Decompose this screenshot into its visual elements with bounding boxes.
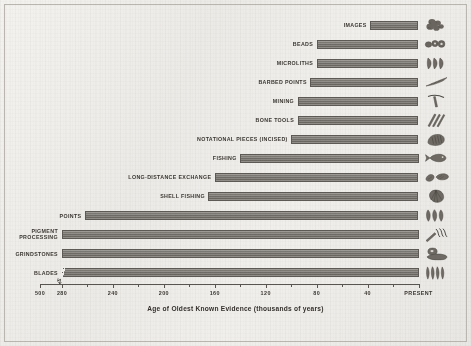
grindstone-icon	[423, 246, 463, 261]
bar	[298, 97, 419, 106]
x-axis-ticks: 5002802402001601208040PRESENT	[0, 284, 471, 300]
bar-label: NOTATIONAL PIECES (INCISED)	[98, 136, 288, 142]
bar	[215, 173, 419, 182]
axis-minor-tick	[138, 284, 139, 287]
bar-track	[215, 173, 419, 182]
bar-track	[62, 249, 419, 258]
chart-figure: IMAGES BEADS MICROLITHS BARBED POINTS MI…	[0, 0, 471, 346]
bar-row: PIGMENTPROCESSING	[0, 229, 471, 240]
shell-icon	[423, 189, 463, 204]
bar-row: LONG-DISTANCE EXCHANGE	[0, 172, 471, 183]
bar-track	[317, 59, 419, 68]
bar-label: LONG-DISTANCE EXCHANGE	[21, 174, 211, 180]
blades-icon	[423, 265, 463, 280]
bar-row: MINING	[0, 96, 471, 107]
bar-row: NOTATIONAL PIECES (INCISED)	[0, 134, 471, 145]
axis-tick-label: 280	[57, 290, 67, 296]
bar-label-line: PIGMENT	[0, 228, 58, 235]
bar-track	[62, 268, 419, 277]
figurine-icon	[423, 18, 463, 33]
bar	[62, 230, 419, 239]
bar	[291, 135, 418, 144]
bar-row: MICROLITHS	[0, 58, 471, 69]
pick-axe-icon	[423, 94, 463, 109]
bar	[310, 78, 418, 87]
bar-row: BARBED POINTS	[0, 77, 471, 88]
bar-row: FISHING	[0, 153, 471, 164]
bar-label: BARBED POINTS	[117, 79, 307, 85]
bar-row: GRINDSTONES	[0, 248, 471, 259]
bar-label: PIGMENTPROCESSING	[0, 228, 58, 241]
bar	[317, 59, 419, 68]
axis-tick	[113, 284, 114, 288]
bar-label: MINING	[104, 98, 294, 104]
axis-minor-tick	[87, 284, 88, 287]
bar-track	[240, 154, 418, 163]
bar-label: SHELL FISHING	[15, 193, 205, 199]
pigment-icon	[423, 227, 463, 242]
axis-tick	[266, 284, 267, 288]
barbed-point-icon	[423, 75, 463, 90]
bar-track	[298, 116, 419, 125]
axis-minor-tick	[342, 284, 343, 287]
stone-points-icon	[423, 208, 463, 223]
bar-track	[208, 192, 418, 201]
axis-tick	[368, 284, 369, 288]
bar-label: BONE TOOLS	[104, 117, 294, 123]
bar	[370, 21, 418, 30]
bar	[240, 154, 418, 163]
axis-tick-label: 240	[108, 290, 118, 296]
incised-stone-icon	[423, 132, 463, 147]
axis-break-icon: ↯	[56, 278, 63, 286]
axis-minor-tick	[393, 284, 394, 287]
bar-label: GRINDSTONES	[0, 250, 58, 256]
axis-tick-label: PRESENT	[404, 290, 432, 296]
bar-row: SHELL FISHING	[0, 191, 471, 202]
bar-label: MICROLITHS	[123, 60, 313, 66]
bar-track	[291, 135, 418, 144]
bar	[85, 211, 419, 220]
axis-tick	[215, 284, 216, 288]
axis-minor-tick	[291, 284, 292, 287]
bar-row: POINTS	[0, 210, 471, 221]
axis-tick-label: 200	[159, 290, 169, 296]
bar-track	[310, 78, 418, 87]
fish-icon	[423, 151, 463, 166]
axis-tick	[40, 284, 41, 288]
bar	[298, 116, 419, 125]
bar-row: BLADES	[0, 267, 471, 278]
beads-icon	[423, 37, 463, 52]
bar	[317, 40, 419, 49]
x-axis-title: Age of Oldest Known Evidence (thousands …	[0, 305, 471, 312]
bar	[62, 249, 419, 258]
bar-row: BONE TOOLS	[0, 115, 471, 126]
bar-row: IMAGES	[0, 20, 471, 31]
microliths-icon	[423, 56, 463, 71]
bone-tools-icon	[423, 113, 463, 128]
bar-label: IMAGES	[177, 22, 367, 28]
bar-label: BEADS	[123, 41, 313, 47]
bar-label: POINTS	[0, 212, 81, 218]
bar-label-line: PROCESSING	[0, 235, 58, 242]
bar-track	[62, 230, 419, 239]
axis-tick-label: 80	[313, 290, 320, 296]
axis-minor-tick	[240, 284, 241, 287]
axis-tick-label: 160	[210, 290, 220, 296]
bar	[208, 192, 418, 201]
bar	[62, 268, 419, 277]
bar-track	[370, 21, 418, 30]
bar-label: FISHING	[47, 155, 237, 161]
axis-tick	[164, 284, 165, 288]
axis-tick	[317, 284, 318, 288]
axis-tick-label: 500	[35, 290, 45, 296]
axis-tick-label: 120	[261, 290, 271, 296]
bar-track	[298, 97, 419, 106]
bar-row: BEADS	[0, 39, 471, 50]
bar-label: BLADES	[0, 269, 58, 275]
axis-minor-tick	[189, 284, 190, 287]
bar-track	[317, 40, 419, 49]
axis-tick	[419, 284, 420, 288]
exchange-shells-icon	[423, 170, 463, 185]
bar-track	[85, 211, 419, 220]
axis-tick-label: 40	[364, 290, 371, 296]
